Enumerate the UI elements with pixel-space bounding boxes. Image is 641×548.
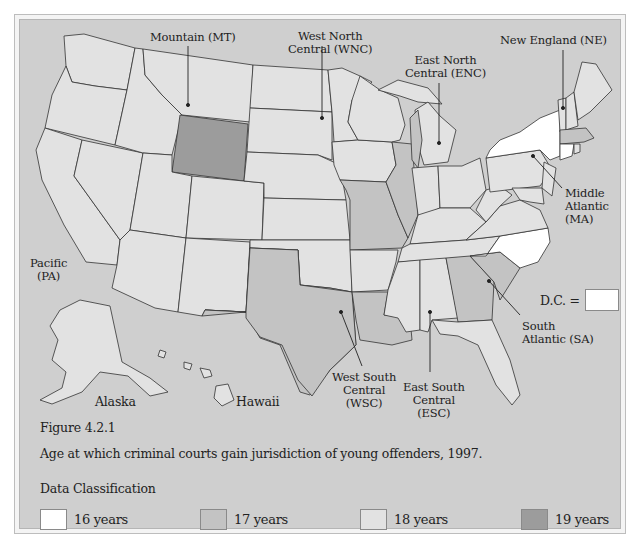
- state-maine: [574, 62, 612, 120]
- state-hawaii-maui: [200, 368, 212, 378]
- label-south-atlantic: SouthAtlantic (SA): [522, 320, 594, 346]
- state-wyoming: [172, 115, 248, 181]
- state-iowa: [332, 140, 396, 182]
- legend-item-17: 17 years: [200, 508, 288, 530]
- label-west-north-central: West NorthCentral (WNC): [288, 30, 372, 56]
- legend-swatch-19: [521, 509, 548, 530]
- figure-number: Figure 4.2.1: [40, 420, 115, 435]
- legend-item-19: 19 years: [521, 508, 609, 530]
- label-middle-atlantic: MiddleAtlantic(MA): [565, 187, 609, 226]
- us-map: [0, 0, 641, 548]
- state-rhode-island: [574, 144, 580, 154]
- legend-heading: Data Classification: [40, 481, 156, 496]
- label-alaska: Alaska: [95, 395, 136, 408]
- state-hawaii-kauai: [158, 350, 166, 358]
- state-north-dakota: [250, 65, 332, 112]
- state-arizona: [112, 230, 186, 312]
- label-east-north-central: East NorthCentral (ENC): [405, 54, 486, 80]
- state-colorado: [186, 176, 264, 240]
- legend-swatch-16: [40, 509, 67, 530]
- figure-title: Age at which criminal courts gain jurisd…: [40, 446, 482, 461]
- state-kansas: [262, 198, 350, 240]
- state-ohio: [438, 158, 486, 208]
- dc-indicator: D.C. =: [540, 289, 619, 311]
- state-massachusetts: [560, 128, 594, 144]
- dc-label: D.C. =: [540, 294, 580, 307]
- label-east-south-central: East SouthCentral(ESC): [403, 381, 465, 420]
- state-hawaii-big: [214, 384, 234, 406]
- state-connecticut: [560, 144, 574, 160]
- state-new-york: [486, 110, 560, 160]
- dc-swatch: [585, 289, 619, 311]
- state-hawaii-oahu: [184, 362, 192, 370]
- legend-item-18: 18 years: [360, 508, 448, 530]
- label-mountain: Mountain (MT): [150, 31, 236, 44]
- legend-swatch-18: [360, 509, 387, 530]
- label-west-south-central: West SouthCentral(WSC): [332, 371, 396, 410]
- state-new-mexico: [178, 238, 250, 316]
- label-new-england: New England (NE): [500, 34, 607, 47]
- legend-swatch-17: [200, 509, 227, 530]
- label-pacific: Pacific(PA): [30, 257, 67, 283]
- label-hawaii: Hawaii: [236, 395, 279, 408]
- state-alaska: [40, 300, 168, 404]
- state-washington: [64, 34, 135, 90]
- legend-item-16: 16 years: [40, 508, 128, 530]
